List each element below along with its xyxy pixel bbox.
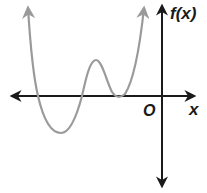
y-axis-label: f(x) [170,4,197,23]
function-curve [28,8,144,133]
x-axis-label: x [188,100,200,119]
function-graph: f(x) x O [0,0,207,193]
origin-label: O [143,102,156,119]
